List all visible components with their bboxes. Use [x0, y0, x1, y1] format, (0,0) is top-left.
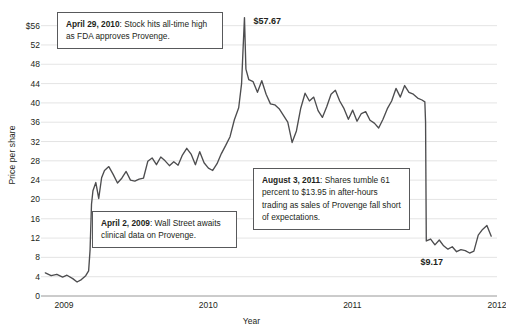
y-tick-4: 4 — [4, 272, 40, 282]
annotation-april-2009: April 2, 2009: Wall Street awaits clinic… — [92, 211, 237, 248]
annotation-april-2010: April 29, 2010: Stock hits all-time high… — [57, 12, 223, 49]
x-tick-2011: 2011 — [343, 300, 361, 310]
annotation-april-2009-date: April 2, 2009 — [101, 218, 150, 228]
annotation-april-2010-date: April 29, 2010 — [66, 19, 120, 29]
annotation-august-2011-date: August 3, 2011 — [262, 175, 320, 185]
peak-price-label: $57.67 — [253, 16, 281, 26]
y-tick-48: 48 — [4, 59, 40, 69]
gridlines — [41, 26, 497, 296]
annotation-august-2011: August 3, 2011: Shares tumble 61 percent… — [253, 168, 410, 230]
x-tick-2010: 2010 — [199, 300, 218, 310]
y-tick-8: 8 — [4, 252, 40, 262]
low-price-label: $9.17 — [421, 257, 444, 267]
x-axis-title: Year — [0, 316, 503, 326]
y-tick-36: 36 — [4, 117, 40, 127]
x-tick-2009: 2009 — [55, 300, 74, 310]
y-tick-28: 28 — [4, 156, 40, 166]
y-tick-12: 12 — [4, 233, 40, 243]
y-tick-56: $56 — [4, 21, 40, 31]
y-tick-0: 0 — [4, 291, 40, 301]
y-tick-16: 16 — [4, 214, 40, 224]
y-tick-20: 20 — [4, 194, 40, 204]
y-tick-52: 52 — [4, 40, 40, 50]
y-tick-40: 40 — [4, 98, 40, 108]
y-axis-tick-labels: $565248444036322824201612840 — [0, 0, 40, 334]
x-tick-2012: 2012 — [487, 300, 506, 310]
y-tick-32: 32 — [4, 137, 40, 147]
y-tick-24: 24 — [4, 175, 40, 185]
y-tick-44: 44 — [4, 79, 40, 89]
